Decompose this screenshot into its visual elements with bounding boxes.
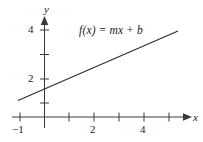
x-axis-arrowhead	[183, 113, 192, 121]
x-tick-label-4: 4	[140, 124, 146, 135]
y-axis-label: y	[44, 4, 49, 15]
function-equation-b: b	[137, 24, 143, 36]
graph-canvas	[0, 0, 203, 142]
y-axis-arrowhead	[41, 16, 49, 25]
y-tick-label-2: 2	[28, 73, 34, 84]
function-equation-equals: =	[99, 24, 106, 36]
function-equation-plus: +	[127, 24, 134, 36]
x-tick-label-neg1: −1	[12, 124, 24, 135]
linear-function-graph-figure: y x 4 2 −1 2 4 f(x)=mx+b	[0, 0, 203, 142]
x-axis-label: x	[193, 112, 198, 123]
function-line-series	[18, 31, 178, 101]
function-equation-fx: f(x)	[79, 24, 96, 36]
function-equation-mx: mx	[109, 24, 123, 36]
y-tick-label-4: 4	[28, 24, 34, 35]
x-tick-label-2: 2	[90, 124, 96, 135]
function-equation-annotation: f(x)=mx+b	[79, 25, 143, 37]
